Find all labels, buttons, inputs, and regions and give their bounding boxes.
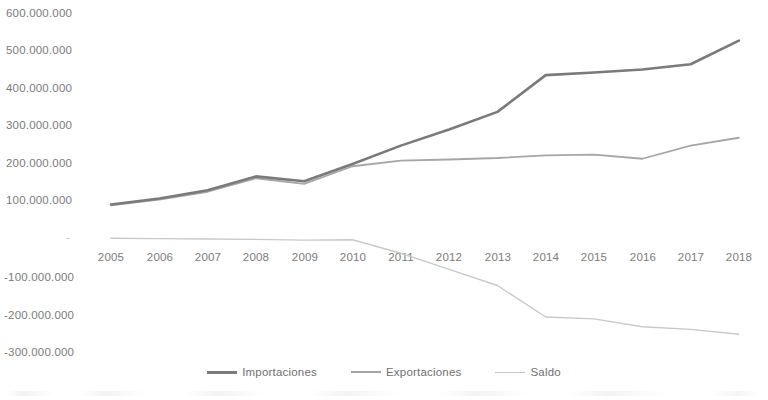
y-axis-label-500m: 500.000.000 (6, 44, 72, 56)
x-axis-label-2012: 2012 (436, 251, 462, 263)
chart-container: 600.000.000 500.000.000 400.000.000 300.… (0, 0, 768, 400)
x-axis-label-2015: 2015 (581, 251, 607, 263)
legend-label-saldo: Saldo (530, 366, 560, 378)
legend-label-exportaciones: Exportaciones (386, 366, 461, 378)
x-axis-label-2005: 2005 (98, 251, 124, 263)
x-axis-label-2010: 2010 (340, 251, 366, 263)
x-axis-label-2006: 2006 (147, 251, 173, 263)
x-axis-label-2018: 2018 (726, 251, 752, 263)
legend-swatch-saldo (495, 372, 525, 373)
x-axis-label-2017: 2017 (678, 251, 704, 263)
x-axis-label-2008: 2008 (243, 251, 269, 263)
legend-item-saldo[interactable]: Saldo (495, 366, 560, 378)
y-axis-label-200m: 200.000.000 (6, 157, 72, 169)
x-axis-label-2016: 2016 (630, 251, 656, 263)
legend-swatch-importaciones (207, 371, 237, 374)
x-axis-label-2007: 2007 (195, 251, 221, 263)
series-line-exportaciones (111, 138, 739, 206)
x-axis-label-2009: 2009 (292, 251, 318, 263)
legend-label-importaciones: Importaciones (242, 366, 317, 378)
plot-area (0, 0, 768, 400)
legend-swatch-exportaciones (351, 371, 381, 373)
y-axis-label-neg100m: -100.000.000 (4, 271, 74, 283)
chart-legend: Importaciones Exportaciones Saldo (0, 366, 768, 378)
legend-item-importaciones[interactable]: Importaciones (207, 366, 317, 378)
y-axis-label-neg200m: -200.000.000 (4, 309, 74, 321)
page-footer-smudge (8, 391, 760, 396)
y-axis-label-600m: 600.000.000 (6, 7, 72, 19)
x-axis-label-2014: 2014 (533, 251, 559, 263)
x-axis-label-2011: 2011 (388, 251, 414, 263)
y-axis-label-400m: 400.000.000 (6, 82, 72, 94)
x-axis-label-2013: 2013 (485, 251, 511, 263)
y-axis-label-neg300m: -300.000.000 (4, 346, 74, 358)
series-line-importaciones (111, 41, 739, 205)
legend-item-exportaciones[interactable]: Exportaciones (351, 366, 461, 378)
y-axis-label-100m: 100.000.000 (6, 194, 72, 206)
y-axis-label-zero: - (66, 231, 70, 243)
y-axis-label-300m: 300.000.000 (6, 119, 72, 131)
